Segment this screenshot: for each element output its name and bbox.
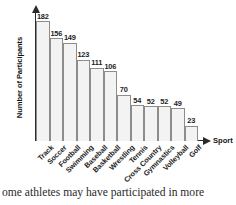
bar-rect — [90, 68, 104, 141]
bar-value-label: 149 — [64, 33, 76, 42]
bar-value-label: 54 — [133, 96, 141, 105]
bar-rect — [158, 106, 172, 140]
y-axis-label: Number of Participants — [15, 18, 24, 138]
bar-value-label: 52 — [147, 97, 155, 106]
bar-chart-figure: Number of Participants Sport 18215614912… — [0, 0, 236, 205]
bar-rect — [131, 105, 145, 140]
bar-track: 182 — [36, 12, 50, 141]
bar-soccer: 156 — [50, 12, 64, 141]
bar-tennis: 54 — [131, 12, 145, 141]
bar-rect — [117, 95, 131, 141]
bar-value-label: 70 — [120, 85, 128, 94]
bar-football: 149 — [63, 12, 77, 141]
bar-rect — [50, 38, 64, 140]
bar-basketball: 106 — [104, 12, 118, 141]
bar-swimming: 123 — [77, 12, 91, 141]
bar-rect — [36, 21, 50, 140]
bar-value-label: 106 — [104, 62, 116, 71]
bar-rect — [77, 60, 91, 141]
bar-rect — [171, 108, 185, 140]
bar-wrestling: 70 — [117, 12, 131, 141]
bar-golf: 23 — [185, 12, 199, 141]
bar-rect — [104, 71, 118, 141]
bar-rect — [185, 126, 199, 141]
bar-value-label: 156 — [50, 29, 62, 38]
bar-rect — [63, 43, 77, 141]
bar-volleyball: 49 — [171, 12, 185, 141]
x-axis-label: Sport — [213, 136, 233, 145]
bar-value-label: 52 — [160, 97, 168, 106]
bar-cross-country: 52 — [144, 12, 158, 141]
category-label-golf: Golf — [187, 143, 203, 159]
x-axis-tick-labels: TrackSoccerFootballSwimmingBaseballBaske… — [36, 141, 206, 191]
bar-value-label: 182 — [37, 12, 49, 21]
plot-area: 182156149123111106705452524923 — [36, 12, 198, 141]
bar-value-label: 23 — [187, 116, 195, 125]
figure-caption: ome athletes may have participated in mo… — [2, 186, 236, 199]
bar-value-label: 111 — [91, 58, 102, 67]
bar-value-label: 49 — [174, 99, 182, 108]
bar-baseball: 111 — [90, 12, 104, 141]
bar-value-label: 123 — [77, 50, 89, 59]
bar-rect — [144, 106, 158, 140]
bar-gymnastics: 52 — [158, 12, 172, 141]
